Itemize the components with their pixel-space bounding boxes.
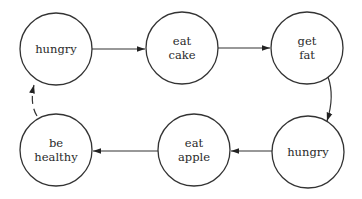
node-hungry: hungry <box>20 13 92 85</box>
node-label: hungry <box>35 42 77 56</box>
node-label-line1: eat <box>185 136 204 150</box>
node-eat-apple: eat apple <box>158 114 230 186</box>
cycle-diagram: hungry eat cake get fat hungry eat apple… <box>0 0 362 199</box>
node-get-fat: get fat <box>271 12 343 84</box>
node-label-line1: eat <box>173 34 192 48</box>
node-be-healthy: be healthy <box>20 114 92 186</box>
node-eat-cake: eat cake <box>146 12 218 84</box>
node-label-line1: get <box>298 34 317 48</box>
node-label-line2: fat <box>299 48 315 62</box>
node-label-line2: cake <box>168 48 195 62</box>
node-label-line2: apple <box>178 150 210 164</box>
edge-be-healthy-to-hungry-dashed <box>32 85 37 116</box>
edge-get-fat-to-hungry <box>327 77 331 121</box>
node-hungry-2: hungry <box>272 116 344 188</box>
node-label: hungry <box>287 145 329 159</box>
node-label-line1: be <box>49 136 63 150</box>
node-label-line2: healthy <box>34 150 78 164</box>
